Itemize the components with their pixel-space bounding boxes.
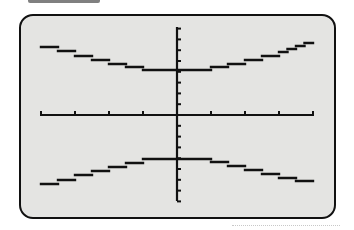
- graph-plot: [0, 0, 354, 230]
- dotted-rule: [232, 225, 340, 226]
